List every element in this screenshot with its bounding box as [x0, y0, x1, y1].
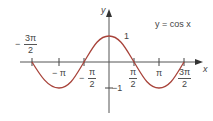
denominator: 2 [131, 79, 136, 89]
x-tick-label-3pi-2: 3π 2 [178, 68, 191, 89]
denominator: 2 [28, 45, 33, 55]
x-axis-arrow-icon [195, 59, 203, 65]
numerator: 3π [178, 68, 191, 79]
y-axis-label: y [101, 6, 106, 15]
numerator: 3π [24, 34, 37, 45]
x-tick-label-neg-pi-2: π 2 [88, 68, 96, 89]
y-tick-label-1: 1 [124, 32, 129, 41]
numerator: π [88, 68, 96, 79]
denominator: 2 [182, 79, 187, 89]
y-tick-label-neg1: −1 [112, 84, 122, 93]
y-axis-arrow-icon [106, 9, 112, 17]
neg-sign: − [79, 74, 84, 83]
neg-sign: − [15, 40, 20, 49]
x-tick-label-neg-pi: − π [52, 69, 66, 78]
x-axis-label: x [203, 65, 208, 74]
x-tick-label-neg-3pi-2: 3π 2 [24, 34, 37, 55]
x-tick-label-pi-2: π 2 [129, 68, 137, 89]
numerator: π [129, 68, 137, 79]
x-tick-label-pi: π [156, 69, 162, 78]
equation-label: y = cos x [155, 20, 191, 29]
denominator: 2 [90, 79, 95, 89]
